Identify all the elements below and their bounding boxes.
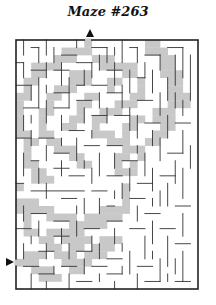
shaded-cell-span (54, 85, 77, 93)
shaded-cell-span (24, 229, 39, 237)
shaded-cell-span (107, 85, 115, 93)
shaded-cell-span (92, 131, 115, 139)
solution-path-shading (16, 40, 191, 282)
shaded-cell-span (46, 138, 61, 146)
shaded-cell-span (46, 93, 61, 101)
shaded-cell-span (62, 259, 93, 267)
shaded-cell-span (39, 115, 47, 123)
shaded-cell-span (130, 93, 145, 101)
shaded-cell-span (24, 161, 39, 169)
shaded-cell-span (24, 251, 47, 259)
shaded-cell-span (145, 48, 168, 56)
shaded-cell-span (24, 85, 32, 93)
shaded-cell-span (153, 108, 176, 116)
shaded-cell-span (62, 48, 93, 56)
shaded-cell-span (46, 229, 84, 237)
shaded-cell-span (122, 183, 130, 191)
shaded-cell-span (39, 236, 54, 244)
shaded-cell-span (77, 108, 85, 116)
shaded-cell-span (16, 123, 24, 131)
shaded-cell-span (69, 266, 84, 274)
shaded-cell-span (16, 198, 39, 206)
shaded-cell-span (122, 131, 130, 139)
shaded-cell-span (168, 85, 183, 93)
shaded-cell-span (16, 206, 54, 214)
shaded-cell-span (145, 40, 160, 48)
shaded-cell-span (153, 131, 168, 139)
shaded-cell-span (115, 161, 123, 169)
maze-entrance-opening[interactable] (85, 39, 91, 42)
shaded-cell-span (16, 108, 24, 116)
shaded-cell-span (92, 244, 115, 252)
shaded-cell-span (160, 70, 183, 78)
shaded-cell-span (92, 55, 115, 63)
shaded-cell-span (69, 70, 92, 78)
shaded-cell-span (99, 206, 130, 214)
shaded-cell-span (16, 131, 31, 139)
shaded-cell-span (46, 214, 77, 222)
shaded-cell-span (24, 153, 32, 161)
shaded-cell-span (92, 115, 107, 123)
shaded-cell-span (137, 85, 145, 93)
entrance-arrow-icon (86, 29, 94, 37)
maze-board (0, 0, 216, 305)
shaded-cell-span (115, 153, 130, 161)
shaded-cell-span (54, 251, 77, 259)
shaded-cell-span (31, 70, 46, 78)
shaded-cell-span (168, 93, 191, 101)
shaded-cell-span (160, 63, 175, 71)
shaded-cell-span (99, 236, 122, 244)
shaded-cell-span (84, 93, 99, 101)
shaded-cell-span (107, 138, 130, 146)
shaded-cell-span (31, 176, 54, 184)
shaded-cell-span (92, 123, 100, 131)
shaded-cell-span (54, 55, 77, 63)
shaded-cell-span (24, 214, 32, 222)
shaded-cell-span (69, 221, 107, 229)
shaded-cell-span (62, 236, 93, 244)
shaded-cell-span (137, 78, 145, 86)
shaded-cell-span (84, 251, 107, 259)
shaded-cell-span (31, 266, 54, 274)
shaded-cell-span (39, 274, 62, 282)
shaded-cell-span (16, 93, 31, 101)
shaded-cell-span (122, 191, 130, 199)
shaded-cell-span (84, 214, 122, 222)
shaded-cell-span (137, 153, 145, 161)
shaded-cell-span (24, 78, 39, 86)
shaded-cell-span (130, 161, 138, 169)
shaded-cell-span (69, 78, 92, 86)
shaded-cell-span (77, 100, 92, 108)
shaded-cell-span (99, 108, 122, 116)
shaded-cell-span (62, 123, 77, 131)
maze-exit-opening[interactable] (15, 260, 18, 266)
shaded-cell-span (16, 115, 24, 123)
shaded-cell-span (153, 115, 176, 123)
shaded-cell-span (115, 100, 138, 108)
shaded-cell-span (16, 259, 39, 267)
shaded-cell-span (168, 100, 191, 108)
shaded-cell-span (39, 123, 47, 131)
shaded-cell-span (16, 100, 24, 108)
shaded-cell-span (16, 183, 24, 191)
shaded-cell-span (69, 115, 84, 123)
shaded-cell-span (69, 244, 84, 252)
exit-arrow-icon (6, 258, 14, 266)
shaded-cell-span (39, 131, 54, 139)
shaded-cell-span (46, 244, 61, 252)
shaded-cell-span (24, 221, 32, 229)
shaded-cell-span (122, 198, 130, 206)
shaded-cell-span (115, 168, 138, 176)
shaded-cell-span (46, 100, 54, 108)
shaded-cell-span (99, 63, 137, 71)
shaded-cell-span (54, 146, 77, 154)
shaded-cell-span (160, 55, 175, 63)
shaded-cell-span (24, 146, 32, 154)
shaded-cell-span (122, 146, 145, 154)
